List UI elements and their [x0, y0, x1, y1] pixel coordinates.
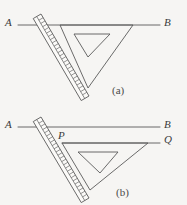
figure-b-canvas — [0, 0, 187, 205]
figure-b: A B P Q (b) — [0, 0, 187, 205]
label-B-figure-b: B — [164, 119, 171, 130]
geometry-figure-page: A B (a) A B P Q (b) — [0, 0, 187, 205]
label-A-figure-b: A — [5, 119, 12, 130]
label-Q-figure-b: Q — [164, 134, 172, 145]
caption-figure-b: (b) — [116, 186, 129, 198]
label-P-figure-b: P — [58, 130, 65, 141]
